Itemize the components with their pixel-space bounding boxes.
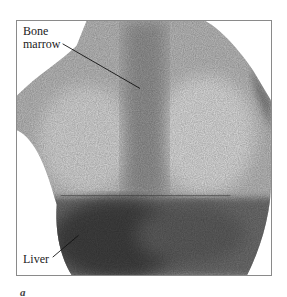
bone-marrow-label-line2: marrow: [23, 38, 60, 50]
bone-marrow-scan-image: [17, 21, 271, 275]
bone-marrow-label-line1: Bone: [23, 25, 48, 37]
scintigraphy-image-frame: Bone marrow Liver: [16, 20, 272, 276]
figure-panel-letter: a: [20, 286, 26, 297]
liver-label: Liver: [23, 253, 49, 265]
